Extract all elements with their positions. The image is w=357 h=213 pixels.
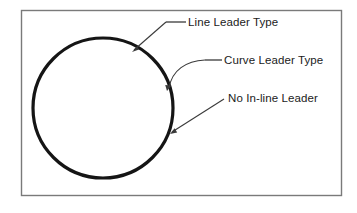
leader-type-diagram: Line Leader Type Curve Leader Type No In… [0,0,357,213]
label-no-inline-leader: No In-line Leader [228,92,318,104]
canvas-background [0,0,357,213]
label-line-leader-type: Line Leader Type [188,16,278,28]
label-curve-leader-type: Curve Leader Type [224,54,323,66]
diagram-screenshot: Line Leader Type Curve Leader Type No In… [0,0,357,213]
